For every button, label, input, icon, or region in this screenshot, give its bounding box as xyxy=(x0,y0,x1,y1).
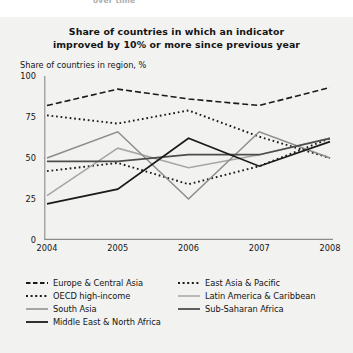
legend-item-middle-east-north-africa[interactable]: Middle East & North Africa xyxy=(26,317,178,327)
legend-row: Europe & Central AsiaEast Asia & Pacific xyxy=(26,276,336,289)
y-tick-75: 75 xyxy=(26,112,36,122)
legend-label: Middle East & North Africa xyxy=(53,317,161,327)
y-axis-tick-labels: 0255075100 xyxy=(0,70,44,246)
cut-off-caption: over time xyxy=(93,0,135,5)
x-axis-tick-labels: 20042005200620072008 xyxy=(0,243,353,257)
legend-item-empty xyxy=(178,318,334,326)
legend-row: South AsiaSub-Saharan Africa xyxy=(26,302,336,315)
chart-lines xyxy=(44,76,333,240)
legend-item-east-asia-pacific[interactable]: East Asia & Pacific xyxy=(178,278,334,288)
y-tick-100: 100 xyxy=(20,71,36,81)
legend-label: OECD high-income xyxy=(53,291,130,301)
series-line-3 xyxy=(47,138,330,195)
x-tick-2005: 2005 xyxy=(107,243,128,253)
x-tick-2004: 2004 xyxy=(37,243,58,253)
y-axis-caption: Share of countries in region, % xyxy=(20,60,146,70)
legend-line-icon xyxy=(26,305,48,313)
legend-line-icon xyxy=(178,305,200,313)
legend-label: Europe & Central Asia xyxy=(53,278,143,288)
legend-label: Latin America & Caribbean xyxy=(205,291,315,301)
x-tick-2008: 2008 xyxy=(320,243,341,253)
legend-line-icon xyxy=(178,279,200,287)
legend-line-icon xyxy=(178,292,200,300)
chart-title-line-1: Share of countries in which an indicator xyxy=(0,26,353,39)
legend-spacer xyxy=(178,318,200,326)
series-line-0 xyxy=(47,87,330,105)
x-tick-2007: 2007 xyxy=(249,243,270,253)
legend-line-icon xyxy=(26,318,48,326)
chart-title: Share of countries in which an indicator… xyxy=(0,26,353,51)
chart-title-line-2: improved by 10% or more since previous y… xyxy=(0,39,353,52)
legend-row: OECD high-incomeLatin America & Caribbea… xyxy=(26,289,336,302)
page-top-strip xyxy=(0,0,353,17)
y-tick-25: 25 xyxy=(26,194,36,204)
chart-page: over time Share of countries in which an… xyxy=(0,0,353,353)
legend-item-europe-central-asia[interactable]: Europe & Central Asia xyxy=(26,278,178,288)
legend-label: East Asia & Pacific xyxy=(205,278,280,288)
legend-line-icon xyxy=(26,279,48,287)
legend-item-latin-america-caribbean[interactable]: Latin America & Caribbean xyxy=(178,291,334,301)
chart-legend: Europe & Central AsiaEast Asia & Pacific… xyxy=(26,276,336,329)
legend-label: South Asia xyxy=(53,304,97,314)
x-tick-2006: 2006 xyxy=(178,243,199,253)
series-line-4 xyxy=(47,132,330,199)
legend-item-oecd-high-income[interactable]: OECD high-income xyxy=(26,291,178,301)
legend-item-south-asia[interactable]: South Asia xyxy=(26,304,178,314)
series-line-1 xyxy=(47,110,330,158)
legend-item-sub-saharan-africa[interactable]: Sub-Saharan Africa xyxy=(178,304,334,314)
y-tick-50: 50 xyxy=(26,153,36,163)
legend-label: Sub-Saharan Africa xyxy=(205,304,284,314)
plot-area xyxy=(44,76,333,240)
legend-row: Middle East & North Africa xyxy=(26,316,336,329)
legend-line-icon xyxy=(26,292,48,300)
